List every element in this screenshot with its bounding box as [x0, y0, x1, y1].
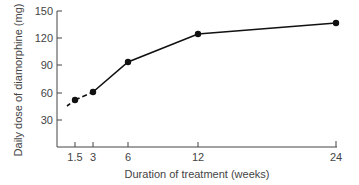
y-axis-label: Daily dose of diamorphine (mg)	[12, 4, 24, 157]
data-point	[125, 59, 131, 65]
y-tick-label: 60	[41, 87, 53, 99]
data-point	[90, 89, 96, 95]
data-point	[333, 20, 339, 26]
data-point	[195, 31, 201, 37]
series-line	[93, 23, 336, 92]
y-tick-label: 150	[35, 5, 53, 17]
y-tick-label: 30	[41, 114, 53, 126]
x-axis: 1.5 3 6 12 24 Duration of treatment (wee…	[57, 141, 342, 180]
x-axis-label: Duration of treatment (weeks)	[125, 168, 270, 180]
line-chart: 150 120 90 60 30 Daily dose of diamorphi…	[0, 0, 359, 185]
x-tick-label: 6	[125, 151, 131, 163]
data-series	[67, 20, 339, 106]
data-point	[72, 97, 78, 103]
y-tick-label: 90	[41, 59, 53, 71]
x-tick-label: 1.5	[67, 151, 82, 163]
y-tick-label: 120	[35, 32, 53, 44]
x-tick-label: 12	[192, 151, 204, 163]
y-axis: 150 120 90 60 30 Daily dose of diamorphi…	[12, 4, 62, 157]
x-tick-label: 3	[90, 151, 96, 163]
x-tick-label: 24	[330, 151, 342, 163]
